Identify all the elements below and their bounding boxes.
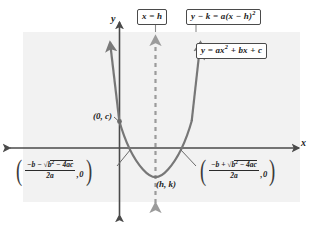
left-root-denominator: 2a [46, 171, 54, 181]
left-root-ordinate: 0 [79, 169, 83, 180]
left-root-numerator: −b − √b2 − 4ac [25, 160, 75, 170]
vertex-form-exponent: 2 [252, 9, 255, 16]
figure-canvas [0, 0, 315, 225]
right-root-numerator: −b + √b2 − 4ac [209, 160, 259, 170]
standard-form-text-post: + bx + c [228, 45, 262, 55]
vertex-label: (h, k) [156, 180, 176, 189]
left-root-fraction: −b − √b2 − 4ac 2a [25, 160, 75, 180]
left-root-callout: ( −b − √b2 − 4ac 2a , 0 ) [14, 160, 94, 180]
left-root-numerator-pre: −b − [27, 160, 44, 169]
right-root-numerator-pre: −b + [211, 160, 227, 169]
right-root-denominator: 2a [230, 171, 238, 181]
right-root-radicand-post: − 4ac [238, 160, 257, 169]
quadratic-function-figure: y x x = h y − k = a(x − h)2 y = ax2 + bx… [0, 0, 315, 225]
vertex-form-text: y − k = a(x − h) [191, 11, 252, 21]
right-root-callout: ( −b + √b2 − 4ac 2a , 0 ) [198, 160, 277, 180]
y-axis-label: y [111, 14, 115, 24]
right-root-vinculum [234, 160, 257, 161]
left-root-comma: , [76, 169, 78, 180]
left-root-radical: √b2 − 4ac [44, 160, 74, 169]
axis-of-symmetry-callout: x = h [137, 9, 167, 25]
left-root-radicand-post: − 4ac [54, 160, 73, 169]
vertex-form-callout: y − k = a(x − h)2 [186, 9, 261, 25]
left-root-vinculum [50, 160, 73, 161]
right-root-ordinate: 0 [263, 169, 267, 180]
standard-form-text-pre: y = ax [201, 45, 225, 55]
right-root-comma: , [260, 169, 262, 180]
y-intercept-label: (0, c) [93, 112, 112, 121]
x-axis-label: x [301, 138, 306, 148]
right-root-fraction: −b + √b2 − 4ac 2a [209, 160, 259, 180]
right-root-radical: √b2 − 4ac [227, 160, 257, 169]
standard-form-callout: y = ax2 + bx + c [196, 43, 267, 59]
